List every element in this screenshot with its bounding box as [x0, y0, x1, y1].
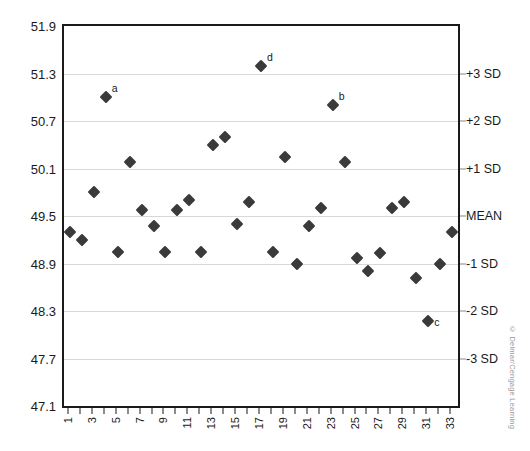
x-axis-tick-mark — [187, 408, 188, 414]
data-point — [326, 99, 339, 112]
x-axis-tick-mark — [450, 408, 451, 414]
data-point — [374, 247, 387, 260]
y-axis-right-tick-label: -2 SD — [466, 304, 498, 318]
x-axis-tick-label: 9 — [158, 417, 169, 423]
data-point — [123, 156, 136, 169]
data-point — [159, 245, 172, 258]
x-axis-tick-mark — [354, 408, 355, 414]
x-axis-tick-label: 5 — [110, 417, 121, 423]
y-axis-right-tick-mark — [460, 311, 466, 312]
x-axis-tick-mark — [390, 408, 391, 414]
y-axis-right-tick-label: -1 SD — [466, 257, 498, 271]
data-point — [111, 245, 124, 258]
x-axis-tick-mark — [139, 408, 140, 414]
x-axis-tick-mark — [163, 408, 164, 414]
x-axis-tick-mark — [414, 408, 415, 414]
data-point — [422, 314, 435, 327]
x-axis-tick-mark — [247, 408, 248, 414]
data-point — [290, 257, 303, 270]
data-point — [231, 218, 244, 231]
data-point — [314, 202, 327, 215]
x-axis-tick-label: 1 — [62, 417, 73, 423]
data-point — [410, 271, 423, 284]
y-axis-right-tick-label: +2 SD — [466, 114, 501, 128]
x-axis-tick-mark — [342, 408, 343, 414]
data-point-label-b: b — [339, 90, 345, 102]
x-axis-tick-mark — [115, 408, 116, 414]
data-point-label-d: d — [267, 51, 273, 63]
y-axis-right-tick-label: -3 SD — [466, 352, 498, 366]
x-axis-tick-label: 3 — [86, 417, 97, 423]
x-axis-tick-label: 29 — [397, 417, 408, 429]
data-point — [302, 219, 315, 232]
x-axis-tick-mark — [127, 408, 128, 414]
data-point — [147, 219, 160, 232]
x-axis-tick-mark — [306, 408, 307, 414]
data-point — [267, 245, 280, 258]
x-axis-tick-label: 23 — [325, 417, 336, 429]
x-axis-tick-mark — [366, 408, 367, 414]
data-point — [64, 225, 77, 238]
x-axis-tick-mark — [103, 408, 104, 414]
data-point-label-c: c — [434, 316, 439, 328]
data-point — [87, 186, 100, 199]
x-axis: 13579111315171921232527293133 — [62, 408, 460, 451]
data-point — [195, 245, 208, 258]
data-point — [219, 130, 232, 143]
copyright-notice: © Delmar/Cengage Learning — [508, 325, 517, 429]
x-axis-tick-mark — [402, 408, 403, 414]
y-axis-right-tick-mark — [460, 73, 466, 74]
x-axis-tick-label: 13 — [206, 417, 217, 429]
x-axis-tick-label: 11 — [182, 417, 193, 428]
y-axis-right-tick-label: +3 SD — [466, 67, 501, 81]
y-axis-right-tick-mark — [460, 216, 466, 217]
x-axis-tick-mark — [235, 408, 236, 414]
y-axis-left-tick-label: 49.5 — [31, 209, 56, 224]
x-axis-tick-label: 19 — [277, 417, 288, 429]
x-axis-tick-mark — [259, 408, 260, 414]
x-axis-tick-label: 31 — [421, 417, 432, 429]
data-point — [279, 150, 292, 163]
x-axis-tick-label: 33 — [445, 417, 456, 429]
x-axis-tick-mark — [378, 408, 379, 414]
x-axis-tick-label: 17 — [254, 417, 265, 429]
x-axis-tick-mark — [270, 408, 271, 414]
data-point — [171, 203, 184, 216]
x-axis-tick-mark — [175, 408, 176, 414]
x-axis-tick-mark — [79, 408, 80, 414]
gridline — [64, 121, 458, 122]
x-axis-tick-mark — [199, 408, 200, 414]
data-point — [76, 233, 89, 246]
gridline — [64, 264, 458, 265]
x-axis-tick-label: 25 — [349, 417, 360, 429]
x-axis-tick-mark — [67, 408, 68, 414]
plot-area: abcd — [62, 24, 460, 408]
x-axis-tick-mark — [211, 408, 212, 414]
data-point — [386, 202, 399, 215]
y-axis-left-tick-label: 48.3 — [31, 304, 56, 319]
y-axis-right-tick-label: +1 SD — [466, 162, 501, 176]
levey-jennings-chart: 51.951.350.750.149.548.948.347.747.1 abc… — [0, 0, 530, 451]
y-axis-right: +3 SD+2 SD+1 SDMEAN-1 SD-2 SD-3 SD — [466, 0, 530, 451]
gridline — [64, 311, 458, 312]
y-axis-left: 51.951.350.750.149.548.948.347.747.1 — [0, 0, 56, 451]
y-axis-left-tick-label: 47.1 — [31, 399, 56, 414]
x-axis-tick-mark — [91, 408, 92, 414]
y-axis-left-tick-label: 50.1 — [31, 161, 56, 176]
y-axis-right-tick-mark — [460, 263, 466, 264]
gridline — [64, 216, 458, 217]
y-axis-left-tick-label: 50.7 — [31, 114, 56, 129]
data-point — [255, 59, 268, 72]
data-point-label-a: a — [112, 82, 118, 94]
data-point — [207, 138, 220, 151]
gridline — [64, 359, 458, 360]
data-point — [350, 252, 363, 265]
x-axis-tick-label: 27 — [373, 417, 384, 429]
x-axis-tick-label: 15 — [230, 417, 241, 429]
y-axis-right-tick-label: MEAN — [466, 209, 502, 223]
y-axis-right-tick-mark — [460, 168, 466, 169]
y-axis-left-tick-label: 51.3 — [31, 66, 56, 81]
data-point — [99, 91, 112, 104]
data-point — [243, 195, 256, 208]
data-point — [398, 195, 411, 208]
